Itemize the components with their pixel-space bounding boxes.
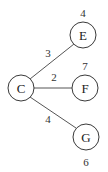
- edge-weight-c-g: 4: [45, 113, 51, 125]
- node-g: G: [73, 124, 99, 150]
- node-label-c: C: [17, 81, 26, 96]
- tree-diagram: 3 2 4 C E 4 F 7 G 6: [0, 0, 108, 172]
- node-e: E: [70, 22, 96, 48]
- edge-weight-c-e: 3: [45, 47, 51, 59]
- edges: [30, 44, 76, 128]
- node-label-g: G: [81, 130, 90, 145]
- node-value-f: 7: [82, 60, 88, 72]
- edge-weight-c-f: 2: [51, 71, 57, 83]
- edge-c-g: [30, 97, 76, 128]
- node-c: C: [8, 75, 34, 101]
- node-label-f: F: [81, 81, 88, 96]
- node-label-e: E: [79, 28, 87, 43]
- node-value-e: 4: [80, 7, 86, 19]
- node-f: F: [72, 75, 98, 101]
- node-value-g: 6: [83, 156, 89, 168]
